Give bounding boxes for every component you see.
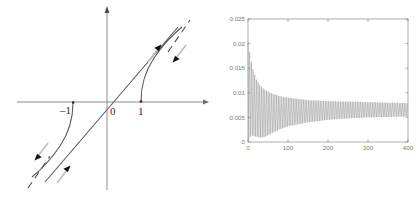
label-minus-one: –1 — [59, 104, 71, 116]
x-tick-label: 100 — [283, 144, 294, 151]
x-tick-label: 200 — [323, 144, 334, 151]
label-one: 1 — [138, 105, 144, 117]
label-origin: 0 — [110, 105, 116, 117]
oscillation-chart-svg: 010020030040000.0050.010.0150.020.025 — [212, 0, 420, 197]
y-tick-label: 0.015 — [230, 64, 246, 71]
phase-portrait-figure: –1 0 1 — [0, 0, 212, 197]
arrow-up-inner-upper — [148, 45, 162, 63]
arrow-down-outer-upper — [173, 45, 187, 63]
figure-pair-container: –1 0 1 010020030040000.0050.010.0150.020… — [0, 0, 420, 197]
phase-portrait-svg: –1 0 1 — [0, 0, 212, 197]
x-tick-label: 400 — [403, 144, 414, 151]
oscillation-decay-chart: 010020030040000.0050.010.0150.020.025 — [212, 0, 420, 197]
vertical-axis — [105, 6, 110, 190]
y-tick-label: 0 — [242, 138, 246, 145]
asymptote-lower-left — [28, 156, 50, 188]
y-tick-label: 0.02 — [233, 40, 246, 47]
y-tick-label: 0.01 — [233, 89, 246, 96]
chart-plot-area: 010020030040000.0050.010.0150.020.025 — [230, 15, 414, 151]
x-tick-label: 0 — [246, 144, 250, 151]
x-tick-label: 300 — [363, 144, 374, 151]
arrow-up-inner-lower — [57, 166, 71, 184]
y-tick-label: 0.005 — [230, 114, 246, 121]
y-tick-label: 0.025 — [230, 15, 246, 22]
arrow-down-outer-lower — [35, 143, 49, 161]
signal-trace — [248, 41, 408, 140]
